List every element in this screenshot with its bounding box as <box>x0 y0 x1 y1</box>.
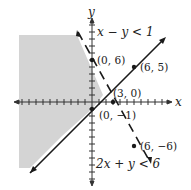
label-6-5: (6, 5) <box>140 61 168 73</box>
label-6-minus6: (6, −6) <box>140 140 177 152</box>
inequality-label-bottom: 2x + y < 6 <box>95 157 161 171</box>
point-3-0 <box>111 100 115 104</box>
y-axis-label: y <box>87 5 95 19</box>
point-0-minus1 <box>90 107 94 111</box>
label-0-6: (0, 6) <box>97 54 125 66</box>
x-axis-label: x <box>175 95 182 109</box>
label-3-0: (3, 0) <box>113 87 141 99</box>
point-0-6 <box>90 58 94 62</box>
point-6-minus6 <box>132 144 136 148</box>
inequality-graph: x y <box>0 0 191 190</box>
inequality-label-top: x − y < 1 <box>97 25 154 39</box>
label-0-minus1: (0, −1) <box>99 109 136 121</box>
point-6-5 <box>132 65 136 69</box>
